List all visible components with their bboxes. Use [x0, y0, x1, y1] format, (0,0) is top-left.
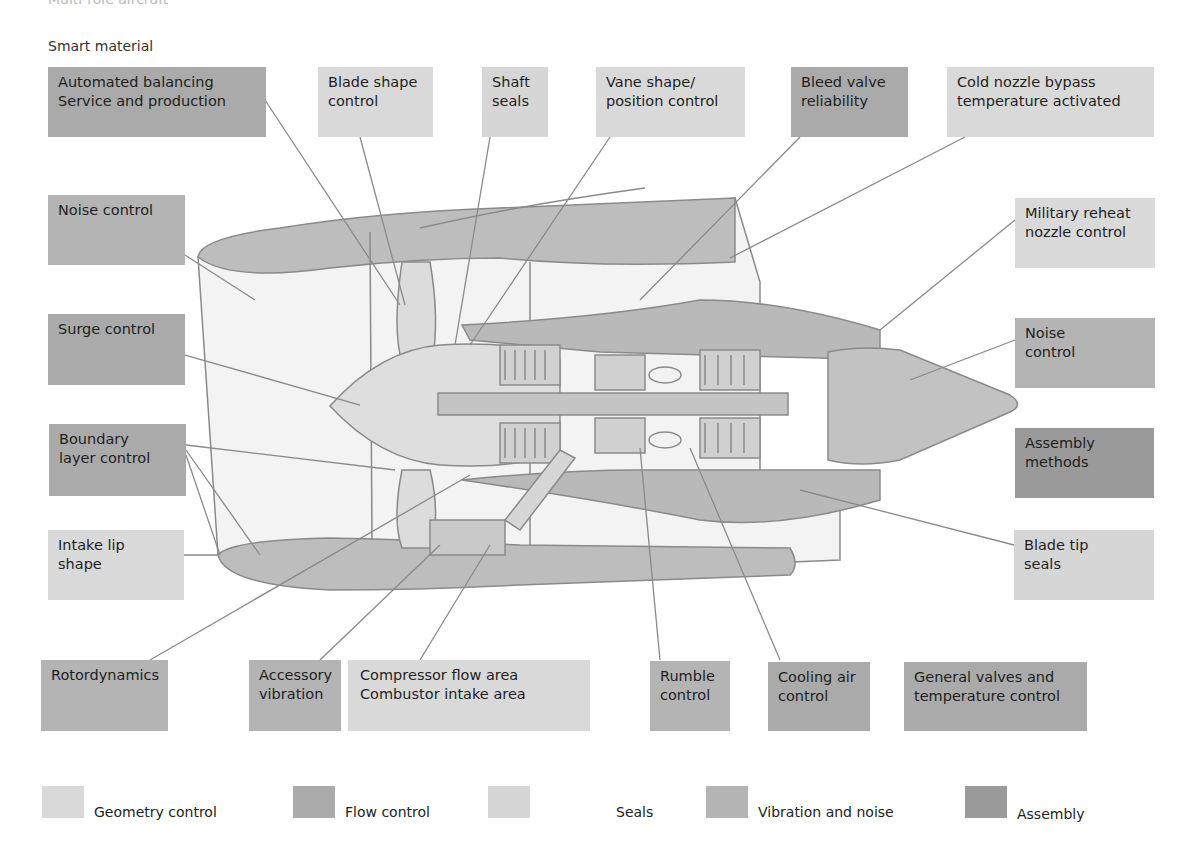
label-bleed-valve-reliability: Bleed valve reliability — [791, 67, 908, 137]
label-line: position control — [606, 92, 735, 111]
label-line: control — [660, 686, 720, 705]
label-intake-lip-shape: Intake lip shape — [48, 530, 184, 600]
label-general-valves-temperature: General valves and temperature control — [904, 662, 1087, 731]
legend-assembly: Assembly — [965, 786, 1165, 826]
label-shaft-seals: Shaft seals — [482, 67, 548, 137]
legend-label: Seals — [616, 804, 653, 820]
label-line: Blade tip — [1024, 536, 1144, 555]
label-cooling-air-control: Cooling air control — [768, 662, 870, 731]
label-cold-nozzle-bypass: Cold nozzle bypass temperature activated — [947, 67, 1154, 137]
label-line: Vane shape/ — [606, 73, 735, 92]
label-line: Blade shape — [328, 73, 423, 92]
label-line: control — [328, 92, 423, 111]
label-rumble-control: Rumble control — [650, 661, 730, 731]
label-line: Noise control — [58, 201, 175, 220]
label-line: Cold nozzle bypass — [957, 73, 1144, 92]
engine-drawing — [198, 188, 1018, 590]
label-line: Rumble — [660, 667, 720, 686]
label-line: Noise — [1025, 324, 1145, 343]
legend-seals: Seals — [488, 786, 608, 826]
label-line: Surge control — [58, 320, 175, 339]
label-noise-control-left: Noise control — [48, 195, 185, 265]
label-line: Combustor intake area — [360, 685, 580, 704]
legend-flow-control: Flow control — [293, 786, 453, 826]
legend-label: Vibration and noise — [758, 804, 894, 820]
label-line: seals — [492, 92, 538, 111]
legend-swatch — [965, 786, 1007, 818]
label-line: temperature control — [914, 687, 1077, 706]
label-line: Cooling air — [778, 668, 860, 687]
label-line: Accessory — [259, 666, 331, 685]
label-line: control — [778, 687, 860, 706]
label-assembly-methods: Assembly methods — [1015, 428, 1154, 498]
label-line: Compressor flow area — [360, 666, 580, 685]
label-vane-shape-position-control: Vane shape/ position control — [596, 67, 745, 137]
label-line: Military reheat — [1025, 204, 1145, 223]
label-line: Shaft — [492, 73, 538, 92]
legend-label: Flow control — [345, 804, 430, 820]
label-line: Rotordynamics — [51, 666, 158, 685]
label-line: Service and production — [58, 92, 256, 111]
label-line: methods — [1025, 453, 1144, 472]
label-line: Automated balancing — [58, 73, 256, 92]
label-rotordynamics: Rotordynamics — [41, 660, 168, 731]
label-boundary-layer-control: Boundary layer control — [49, 424, 186, 496]
label-line: reliability — [801, 92, 898, 111]
legend-vibration-and-noise: Vibration and noise — [706, 786, 926, 826]
label-line: shape — [58, 555, 174, 574]
label-line: seals — [1024, 555, 1144, 574]
label-accessory-vibration: Accessory vibration — [249, 660, 341, 731]
label-line: Boundary — [59, 430, 176, 449]
label-line: Intake lip — [58, 536, 174, 555]
label-line: General valves and — [914, 668, 1077, 687]
label-blade-tip-seals: Blade tip seals — [1014, 530, 1154, 600]
label-compressor-combustor-area: Compressor flow area Combustor intake ar… — [348, 660, 590, 731]
label-automated-balancing: Automated balancing Service and producti… — [48, 67, 266, 137]
legend-geometry-control: Geometry control — [42, 786, 262, 826]
label-blade-shape-control: Blade shape control — [318, 67, 433, 137]
legend-swatch — [488, 786, 530, 818]
label-surge-control: Surge control — [48, 314, 185, 385]
label-military-reheat-nozzle-control: Military reheat nozzle control — [1015, 198, 1155, 268]
label-line: Bleed valve — [801, 73, 898, 92]
label-line: control — [1025, 343, 1145, 362]
label-line: layer control — [59, 449, 176, 468]
legend-swatch — [706, 786, 748, 818]
label-line: vibration — [259, 685, 331, 704]
label-line: Assembly — [1025, 434, 1144, 453]
label-noise-control-right: Noise control — [1015, 318, 1155, 388]
label-line: temperature activated — [957, 92, 1144, 111]
legend-label: Assembly — [1017, 806, 1084, 822]
legend-swatch — [293, 786, 335, 818]
legend-label: Geometry control — [94, 804, 217, 820]
legend-swatch — [42, 786, 84, 818]
label-line: nozzle control — [1025, 223, 1145, 242]
